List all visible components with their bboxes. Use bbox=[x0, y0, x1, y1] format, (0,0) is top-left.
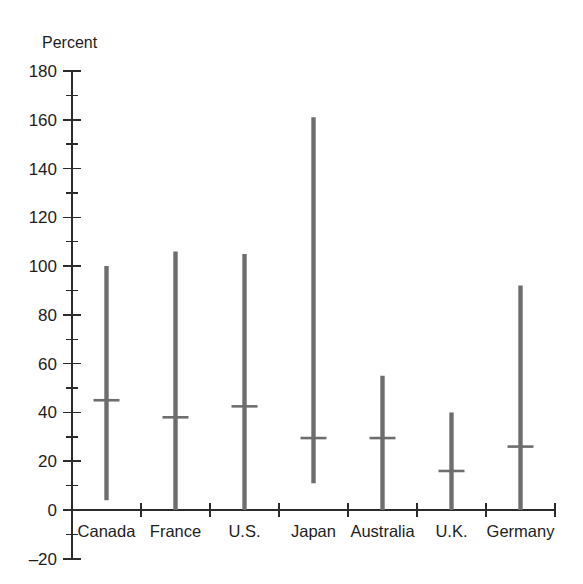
range-bar-group bbox=[232, 254, 258, 510]
y-tick-label: 140 bbox=[29, 160, 57, 179]
range-bar-group bbox=[301, 117, 327, 483]
y-tick-label: 60 bbox=[38, 355, 57, 374]
range-bar-group bbox=[508, 286, 534, 510]
y-tick-label: 20 bbox=[38, 452, 57, 471]
y-tick-label: 120 bbox=[29, 208, 57, 227]
y-tick-label: 100 bbox=[29, 257, 57, 276]
x-tick-label: Canada bbox=[78, 522, 137, 540]
x-tick-label: Japan bbox=[291, 522, 336, 540]
range-bar-chart: 180160140120100806040200–20PercentCanada… bbox=[0, 0, 583, 584]
chart-container: 180160140120100806040200–20PercentCanada… bbox=[0, 0, 583, 584]
range-bar-group bbox=[439, 412, 465, 510]
range-bar-group bbox=[163, 251, 189, 510]
x-tick-label: France bbox=[150, 522, 201, 540]
y-tick-label: 180 bbox=[29, 62, 57, 81]
x-tick-label: U.K. bbox=[435, 522, 467, 540]
range-bar-group bbox=[94, 266, 120, 500]
y-tick-label: 80 bbox=[38, 306, 57, 325]
y-tick-label: –20 bbox=[29, 550, 57, 569]
x-tick-label: Australia bbox=[350, 522, 415, 540]
x-tick-label: U.S. bbox=[228, 522, 260, 540]
x-tick-label: Germany bbox=[487, 522, 556, 540]
y-tick-label: 0 bbox=[48, 501, 57, 520]
y-axis-title: Percent bbox=[42, 34, 98, 51]
y-tick-label: 160 bbox=[29, 111, 57, 130]
range-bar-group bbox=[370, 376, 396, 510]
y-tick-label: 40 bbox=[38, 403, 57, 422]
